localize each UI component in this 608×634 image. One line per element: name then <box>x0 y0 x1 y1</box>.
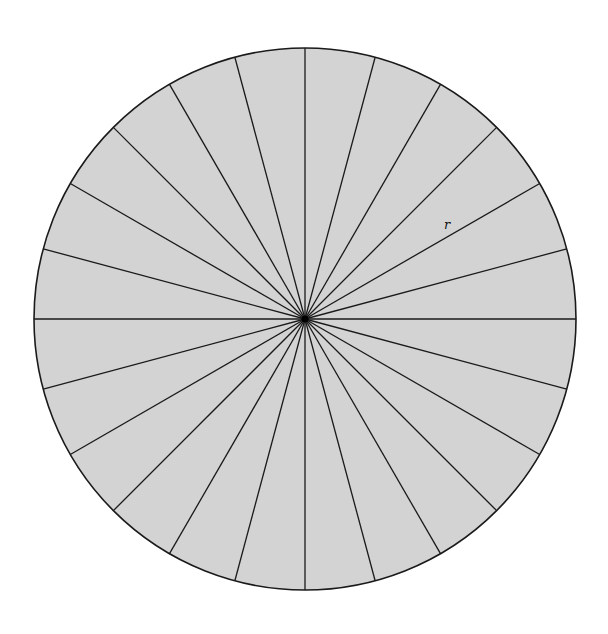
center-point <box>302 316 309 323</box>
radius-label: r <box>444 217 451 232</box>
sectored-circle-diagram: r <box>0 0 608 634</box>
